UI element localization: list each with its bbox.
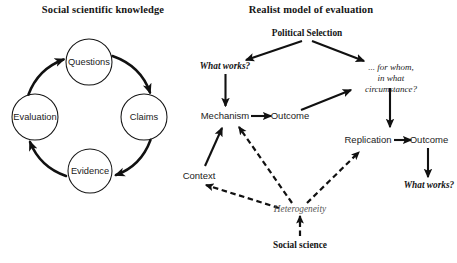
arrow-heterogeneity-to-replication (307, 152, 359, 203)
arrow-political-to-whatworks1 (246, 41, 302, 60)
arrow-outcome1-to-forwhom (301, 90, 351, 110)
node-political-selection: Political Selection (272, 28, 343, 38)
node-context: Context (183, 171, 216, 181)
for-whom-line-1: ... for whom, (356, 62, 426, 73)
for-whom-line-3: circumstance? (356, 84, 426, 95)
node-evidence: Evidence (71, 166, 109, 176)
arrow-political-to-forwhom (312, 41, 364, 61)
arrow-claims-to-evidence (116, 140, 151, 175)
node-what-works-1: What works? (200, 61, 250, 71)
node-replication: Replication (345, 135, 392, 145)
right-panel-title: Realist model of evaluation (249, 4, 373, 15)
node-what-works-2: What works? (404, 180, 454, 190)
node-social-science: Social science (273, 240, 327, 250)
left-panel-title: Social scientific knowledge (42, 4, 164, 15)
arrow-evidence-to-evaluation (30, 142, 66, 176)
arrow-heterogeneity-to-mechanism (239, 127, 292, 203)
node-questions: Questions (68, 57, 110, 67)
diagram-canvas: Social scientific knowledge Realist mode… (0, 0, 457, 263)
arrow-evaluation-to-questions (29, 60, 64, 95)
arrow-context-to-mechanism (205, 128, 222, 166)
arrow-questions-to-claims (113, 56, 151, 93)
node-outcome-1: Outcome (271, 111, 310, 121)
for-whom-line-2: in what (356, 73, 426, 84)
arrow-heterogeneity-to-context (206, 185, 279, 208)
node-claims: Claims (130, 112, 158, 122)
node-outcome-2: Outcome (410, 135, 449, 145)
node-mechanism: Mechanism (201, 111, 250, 121)
node-heterogeneity: Heterogeneity (274, 204, 326, 214)
realist-dashed-arrows (206, 127, 359, 236)
node-evaluation: Evaluation (13, 112, 56, 122)
diagram-vector-layer (0, 0, 457, 263)
node-for-whom: ... for whom, in what circumstance? (356, 62, 426, 95)
